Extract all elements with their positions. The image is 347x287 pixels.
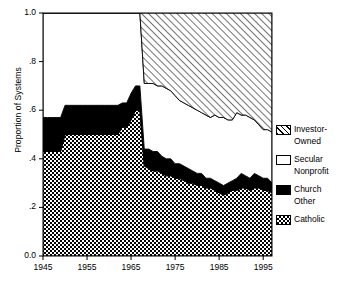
legend-label-church-other-line2: Other [294, 196, 347, 207]
y-tick-label: .8 [10, 56, 36, 66]
y-tick-label: 0.0 [10, 250, 36, 260]
area-series-group [43, 13, 272, 256]
x-tick-label: 1945 [25, 262, 61, 272]
church-other-swatch-icon [276, 185, 291, 195]
y-tick-label: 1.0 [10, 7, 36, 17]
stacked-area-chart: Proportion of Systems 1.0.8.6.4.20.0 194… [0, 0, 347, 287]
x-tick-label: 1995 [245, 262, 281, 272]
y-tick-label: .4 [10, 153, 36, 163]
legend-item-secular-nonprofit[interactable]: Secular Nonprofit [276, 154, 347, 177]
x-tick-label: 1975 [157, 262, 193, 272]
legend: Investor- Owned Secular Nonprofit Church… [276, 124, 347, 232]
legend-item-catholic[interactable]: Catholic [276, 214, 347, 225]
y-tick-label: .6 [10, 104, 36, 114]
legend-label-secular-nonprofit-line1: Secular [294, 154, 323, 165]
investor-owned-swatch-icon [276, 125, 291, 135]
secular-nonprofit-swatch-icon [276, 155, 291, 165]
catholic-swatch-icon [276, 215, 291, 225]
y-tick-label: .2 [10, 201, 36, 211]
legend-label-secular-nonprofit-line2: Nonprofit [294, 166, 347, 177]
legend-label-catholic-line1: Catholic [294, 214, 325, 225]
legend-label-investor-owned-line1: Investor- [294, 124, 327, 135]
x-tick-label: 1985 [201, 262, 237, 272]
x-tick-label: 1965 [113, 262, 149, 272]
legend-label-investor-owned-line2: Owned [294, 136, 347, 147]
x-tick-label: 1955 [69, 262, 105, 272]
legend-item-investor-owned[interactable]: Investor- Owned [276, 124, 347, 147]
legend-label-church-other-line1: Church [294, 184, 321, 195]
legend-item-church-other[interactable]: Church Other [276, 184, 347, 207]
